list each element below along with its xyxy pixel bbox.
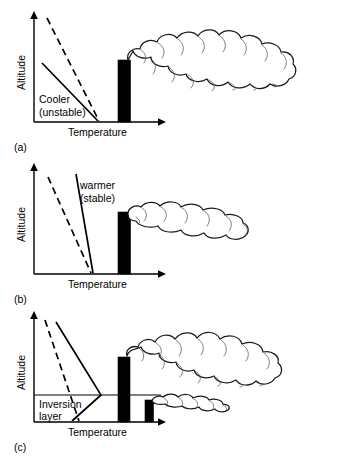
panel-a: Cooler (unstable) Temperature Altitude (… bbox=[0, 0, 353, 155]
panel-c: Inversion layer Temperature Altitude (c) bbox=[0, 300, 353, 455]
plume-cloud-a bbox=[128, 30, 296, 91]
annotation-a-line1: Cooler bbox=[39, 93, 70, 105]
y-axis-label-a: Altitude bbox=[15, 55, 27, 90]
panel-a-graphic: Cooler (unstable) Temperature Altitude (… bbox=[0, 0, 353, 155]
annotation-b-line2: (stable) bbox=[80, 192, 115, 204]
panel-b: warmer (stable) Temperature Altitude (b) bbox=[0, 152, 353, 307]
panel-c-graphic: Inversion layer Temperature Altitude (c) bbox=[0, 300, 353, 455]
x-axis-a bbox=[34, 118, 166, 125]
y-axis-b bbox=[30, 163, 38, 274]
x-axis-label-b: Temperature bbox=[68, 278, 127, 290]
y-axis-label-b: Altitude bbox=[15, 207, 27, 242]
panel-b-graphic: warmer (stable) Temperature Altitude (b) bbox=[0, 152, 353, 307]
x-axis-label-c: Temperature bbox=[68, 426, 127, 438]
smokestack-tall-c bbox=[118, 357, 130, 422]
panel-label-c: (c) bbox=[14, 441, 26, 453]
atmospheric-stability-figure: Cooler (unstable) Temperature Altitude (… bbox=[0, 0, 353, 458]
inversion-label-line1: Inversion bbox=[39, 398, 82, 410]
plume-cloud-upper-c bbox=[127, 332, 282, 387]
annotation-a-line2: (unstable) bbox=[39, 106, 86, 118]
plume-cloud-b bbox=[128, 202, 248, 239]
inversion-label-line2: layer bbox=[39, 410, 62, 422]
plume-cloud-trapped-c bbox=[152, 394, 229, 412]
annotation-b-line1: warmer bbox=[79, 179, 116, 191]
smokestack-short-c bbox=[145, 400, 154, 422]
x-axis-label-a: Temperature bbox=[68, 126, 127, 138]
y-axis-a bbox=[30, 11, 38, 122]
y-axis-c bbox=[30, 311, 38, 422]
y-axis-label-c: Altitude bbox=[15, 355, 27, 390]
smokestack-a bbox=[118, 60, 131, 122]
smokestack-b bbox=[118, 212, 131, 274]
x-axis-b bbox=[34, 270, 166, 277]
